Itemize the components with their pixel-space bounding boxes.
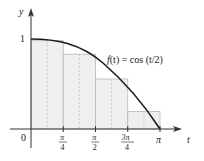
chart: y t 1 0 π 4 π 2 3π 4 π f(t) = cos (t/2) [0, 0, 204, 161]
y-axis-label: y [18, 6, 24, 17]
x-axis-label: t [187, 134, 190, 145]
x-tick-label-pi-over-2: π 2 [91, 133, 99, 152]
svg-text:4: 4 [125, 143, 129, 152]
svg-text:π: π [60, 133, 65, 142]
x-tick-label-pi: π [156, 134, 162, 145]
svg-text:4: 4 [61, 143, 65, 152]
svg-text:π: π [92, 133, 97, 142]
svg-text:2: 2 [93, 143, 97, 152]
function-label: f(t) = cos (t/2) [107, 54, 163, 66]
x-tick-label-0: 0 [21, 132, 26, 143]
x-tick-label-pi-over-4: π 4 [59, 133, 67, 152]
x-tick-label-3pi-over-4: 3π 4 [121, 133, 135, 152]
svg-text:3π: 3π [121, 133, 131, 142]
y-tick-label-1: 1 [20, 33, 25, 44]
